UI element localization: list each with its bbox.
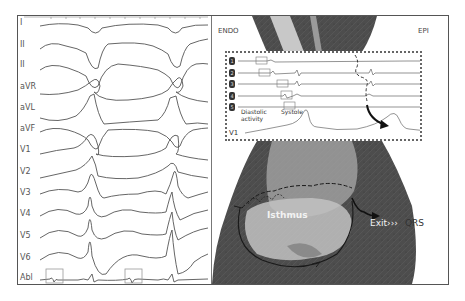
electrogram-inset: 1 2 3 4 5 bbox=[225, 51, 422, 141]
exit-label: Exit››› bbox=[370, 218, 398, 228]
epi-label: EPI bbox=[418, 27, 429, 35]
trace-lead-v4 bbox=[40, 192, 208, 220]
endo-label: ENDO bbox=[218, 27, 239, 35]
qrs-label: QRS bbox=[405, 218, 424, 228]
ecg-traces bbox=[18, 16, 211, 284]
trace-lead-v2 bbox=[40, 156, 208, 179]
figure-frame: I II II aVR aVL aVF V1 V2 V3 V4 V5 V6 Ab… bbox=[17, 15, 449, 285]
systole-label: Systole bbox=[281, 108, 303, 115]
propagation-dashed-path bbox=[355, 55, 367, 101]
trace-lead-v3 bbox=[40, 171, 208, 198]
isthmus-label: Isthmus bbox=[267, 210, 308, 220]
trace-lead-v1 bbox=[40, 134, 208, 160]
trace-lead-avl bbox=[40, 94, 208, 124]
diastolic-label-line2: activity bbox=[241, 115, 263, 122]
trace-lead-i bbox=[40, 24, 208, 33]
trace-lead-avf bbox=[40, 128, 208, 149]
diastolic-label-line1: Diastolic bbox=[241, 108, 267, 115]
inset-electrograms bbox=[227, 53, 420, 139]
ecg-panel: I II II aVR aVL aVF V1 V2 V3 V4 V5 V6 Ab… bbox=[18, 16, 212, 284]
histology-panel: ENDO EPI 1 2 3 4 5 bbox=[212, 16, 448, 284]
trace-lead-abl bbox=[40, 274, 208, 283]
trace-lead-avr bbox=[40, 78, 208, 102]
v1-label: V1 bbox=[229, 129, 238, 137]
trace-lead-v5 bbox=[40, 212, 208, 240]
